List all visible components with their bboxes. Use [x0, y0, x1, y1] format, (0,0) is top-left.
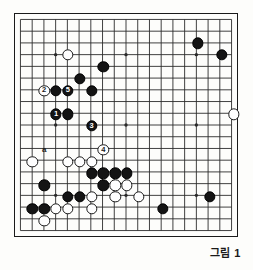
- white-stone[interactable]: [228, 108, 239, 119]
- go-diagram-figure: 12345a 그림 1: [0, 0, 253, 270]
- board-grid: [15, 14, 237, 236]
- figure-caption: 그림 1: [210, 244, 241, 260]
- board-marker-a: a: [42, 146, 46, 154]
- go-board[interactable]: 12345a: [14, 13, 238, 237]
